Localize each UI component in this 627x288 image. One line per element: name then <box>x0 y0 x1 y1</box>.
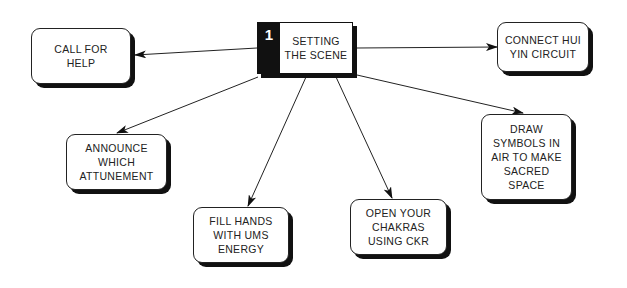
node-label: OPEN YOUR CHAKRAS USING CKR <box>366 206 432 248</box>
mind-map-diagram: 1 SETTING THE SCENE CALL FOR HELP CONNEC… <box>0 0 627 288</box>
node-draw-symbols-in-air[interactable]: DRAW SYMBOLS IN AIR TO MAKE SACRED SPACE <box>481 114 572 200</box>
node-label: CONNECT HUI YIN CIRCUIT <box>505 33 581 61</box>
arrow-to-connect-hui-yin <box>357 47 497 48</box>
arrow-to-call-for-help <box>135 48 257 55</box>
node-label: ANNOUNCE WHICH ATTUNEMENT <box>80 141 154 183</box>
arrow-to-fill-hands <box>248 77 306 206</box>
central-node-title: SETTING THE SCENE <box>280 23 352 73</box>
arrow-to-open-chakras <box>336 77 392 198</box>
arrow-to-announce <box>117 77 258 133</box>
node-label: DRAW SYMBOLS IN AIR TO MAKE SACRED SPACE <box>491 122 562 192</box>
node-announce-which-attunement[interactable]: ANNOUNCE WHICH ATTUNEMENT <box>66 134 167 190</box>
node-call-for-help[interactable]: CALL FOR HELP <box>31 28 131 84</box>
step-number-badge: 1 <box>258 23 280 73</box>
node-fill-hands-with-ums-energy[interactable]: FILL HANDS WITH UMS ENERGY <box>193 207 289 263</box>
node-open-your-chakras-using-ckr[interactable]: OPEN YOUR CHAKRAS USING CKR <box>350 199 447 255</box>
central-node-setting-the-scene[interactable]: 1 SETTING THE SCENE <box>257 22 353 74</box>
arrow-to-draw-symbols <box>357 75 523 113</box>
node-label: CALL FOR HELP <box>54 42 107 70</box>
node-label: FILL HANDS WITH UMS ENERGY <box>209 214 272 256</box>
node-connect-hui-yin-circuit[interactable]: CONNECT HUI YIN CIRCUIT <box>497 22 589 72</box>
